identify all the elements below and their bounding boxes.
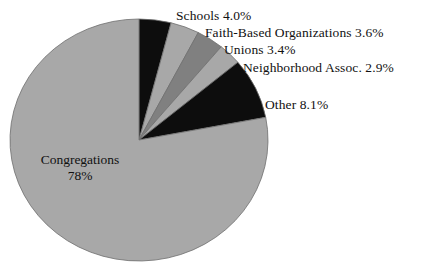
slice-label-other: Other 8.1%: [265, 97, 328, 112]
slice-label-neighborhood-assoc: Neighborhood Assoc. 2.9%: [243, 60, 394, 75]
slice-label-faith-based-organizations: Faith-Based Organizations 3.6%: [205, 25, 384, 40]
slice-label-congregations-name: Congregations: [22, 152, 138, 168]
slice-label-unions: Unions 3.4%: [224, 42, 296, 57]
slice-label-congregations: Congregations 78%: [22, 152, 138, 184]
pie-chart-page: Schools 4.0% Faith-Based Organizations 3…: [0, 0, 434, 274]
slice-label-congregations-value: 78%: [22, 168, 138, 184]
pie-chart-graphic: [0, 0, 434, 274]
slice-label-schools: Schools 4.0%: [176, 8, 251, 23]
